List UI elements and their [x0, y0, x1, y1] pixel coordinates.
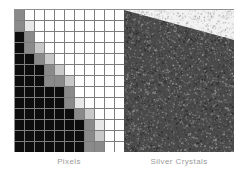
pixel-cell: [35, 76, 45, 87]
pixel-cell: [75, 98, 85, 109]
panel-row: [14, 9, 234, 152]
pixel-cell: [85, 87, 95, 98]
pixel-cell: [85, 120, 95, 131]
pixel-cell: [85, 131, 95, 142]
pixel-cell: [105, 142, 115, 152]
pixel-cell: [95, 109, 105, 120]
pixel-cell: [35, 98, 45, 109]
pixel-cell: [95, 10, 105, 21]
pixel-cell: [15, 98, 25, 109]
pixel-cell: [65, 43, 75, 54]
pixel-cell: [25, 131, 35, 142]
pixel-cell: [85, 98, 95, 109]
pixel-cell: [105, 10, 115, 21]
pixel-cell: [35, 43, 45, 54]
pixel-cell: [95, 131, 105, 142]
pixel-cell: [45, 142, 55, 152]
pixel-cell: [105, 21, 115, 32]
pixel-cell: [35, 54, 45, 65]
pixel-cell: [85, 43, 95, 54]
caption-row: Pixels Silver Crystals: [14, 155, 234, 173]
pixel-cell: [75, 10, 85, 21]
pixel-cell: [25, 32, 35, 43]
pixel-cell: [95, 43, 105, 54]
pixel-cell: [115, 87, 124, 98]
pixel-cell: [45, 54, 55, 65]
pixel-cell: [25, 76, 35, 87]
pixel-cell: [55, 21, 65, 32]
pixel-cell: [65, 32, 75, 43]
pixel-cell: [95, 65, 105, 76]
silver-crystal-panel: [124, 9, 234, 152]
pixel-cell: [55, 65, 65, 76]
pixel-cell: [25, 87, 35, 98]
pixel-cell: [15, 65, 25, 76]
pixel-cell: [105, 65, 115, 76]
pixel-cell: [55, 10, 65, 21]
pixel-cell: [115, 142, 124, 152]
pixel-cell: [95, 98, 105, 109]
pixel-cell: [55, 32, 65, 43]
pixel-cell: [85, 76, 95, 87]
pixel-cell: [25, 98, 35, 109]
pixel-cell: [85, 21, 95, 32]
pixel-cell: [95, 21, 105, 32]
pixel-cell: [85, 65, 95, 76]
figure-pixels-vs-silver-crystals: Pixels Silver Crystals: [0, 0, 249, 177]
pixel-cell: [75, 76, 85, 87]
pixel-cell: [105, 32, 115, 43]
pixel-cell: [75, 21, 85, 32]
pixel-cell: [105, 87, 115, 98]
pixel-cell: [45, 65, 55, 76]
pixel-cell: [55, 43, 65, 54]
pixel-cell: [35, 21, 45, 32]
pixel-cell: [45, 43, 55, 54]
pixel-cell: [85, 142, 95, 152]
silver-crystal-grain: [124, 10, 234, 152]
pixel-cell: [115, 120, 124, 131]
pixel-cell: [55, 54, 65, 65]
pixel-cell: [95, 120, 105, 131]
pixel-cell: [115, 54, 124, 65]
pixel-cell: [75, 131, 85, 142]
pixel-cell: [115, 32, 124, 43]
pixel-cell: [45, 76, 55, 87]
pixel-cell: [25, 10, 35, 21]
pixel-cell: [35, 120, 45, 131]
pixel-cell: [55, 87, 65, 98]
pixel-cell: [115, 10, 124, 21]
pixel-cell: [15, 43, 25, 54]
caption-pixels: Pixels: [14, 155, 124, 173]
pixel-cell: [65, 131, 75, 142]
pixel-cell: [25, 65, 35, 76]
pixel-cell: [105, 54, 115, 65]
pixel-cell: [35, 109, 45, 120]
pixel-cell: [15, 120, 25, 131]
pixel-cell: [15, 10, 25, 21]
pixel-cell: [15, 142, 25, 152]
pixel-cell: [25, 109, 35, 120]
pixel-cell: [45, 10, 55, 21]
pixel-cell: [85, 32, 95, 43]
pixel-grid-panel: [14, 9, 124, 152]
pixel-cell: [65, 120, 75, 131]
pixel-cell: [75, 109, 85, 120]
pixel-cell: [95, 87, 105, 98]
pixel-cell: [95, 32, 105, 43]
pixel-cell: [115, 98, 124, 109]
pixel-cell: [15, 87, 25, 98]
pixel-cell: [35, 142, 45, 152]
pixel-cell: [65, 65, 75, 76]
pixel-cell: [65, 10, 75, 21]
pixel-cell: [75, 142, 85, 152]
pixel-cell: [45, 131, 55, 142]
pixel-cell: [15, 131, 25, 142]
pixel-cell: [45, 32, 55, 43]
pixel-cell: [75, 87, 85, 98]
pixel-cell: [45, 120, 55, 131]
pixel-cell: [15, 76, 25, 87]
pixel-cell: [75, 120, 85, 131]
pixel-cell: [65, 21, 75, 32]
pixel-cell: [65, 98, 75, 109]
pixel-cell: [35, 32, 45, 43]
